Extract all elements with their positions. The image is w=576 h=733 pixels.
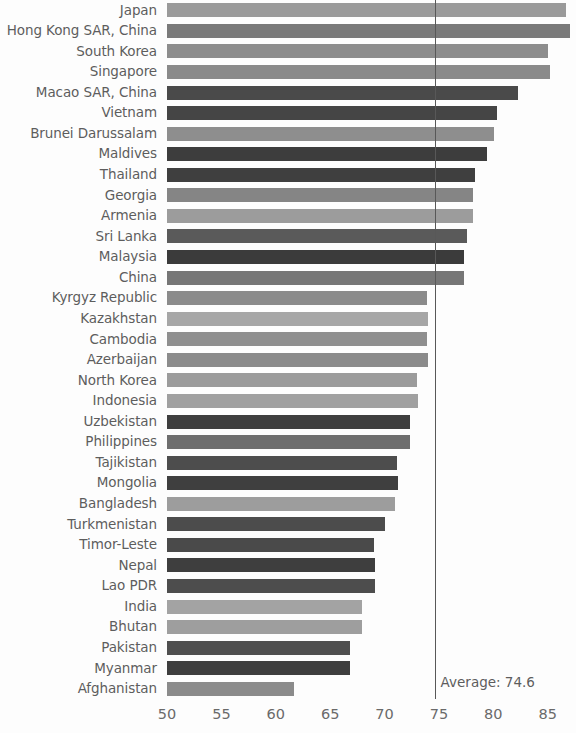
x-axis-tick-label: 65	[321, 707, 339, 722]
bar-row	[167, 103, 576, 124]
category-label: Uzbekistan	[0, 411, 163, 432]
bar-row	[167, 350, 576, 371]
bar-row	[167, 144, 576, 165]
bar-row	[167, 329, 576, 350]
category-label: Malaysia	[0, 247, 163, 268]
category-label: Timor-Leste	[0, 535, 163, 556]
bar-chart: JapanHong Kong SAR, ChinaSouth KoreaSing…	[0, 0, 576, 733]
bar-row	[167, 247, 576, 268]
bar	[167, 538, 374, 552]
bar-row	[167, 226, 576, 247]
x-axis-tick-label: 75	[430, 707, 448, 722]
bar	[167, 373, 417, 387]
bar	[167, 456, 397, 470]
bar	[167, 600, 362, 614]
bar-row	[167, 576, 576, 597]
bar	[167, 558, 375, 572]
category-label: Armenia	[0, 206, 163, 227]
x-axis-tick-label: 60	[267, 707, 285, 722]
category-axis-labels: JapanHong Kong SAR, ChinaSouth KoreaSing…	[0, 0, 163, 699]
category-label: Kyrgyz Republic	[0, 288, 163, 309]
bar-row	[167, 21, 576, 42]
bar-row	[167, 411, 576, 432]
category-label: Nepal	[0, 555, 163, 576]
bar	[167, 188, 473, 202]
category-label: India	[0, 596, 163, 617]
category-label: Singapore	[0, 62, 163, 83]
bar-row	[167, 123, 576, 144]
average-annotation-label: Average: 74.6	[441, 676, 535, 690]
category-label: Indonesia	[0, 391, 163, 412]
bar	[167, 209, 473, 223]
bar	[167, 415, 410, 429]
bar	[167, 168, 475, 182]
bar-rows	[167, 0, 576, 699]
bar-row	[167, 452, 576, 473]
bar-row	[167, 391, 576, 412]
bar-row	[167, 267, 576, 288]
category-label: Macao SAR, China	[0, 82, 163, 103]
category-label: Hong Kong SAR, China	[0, 21, 163, 42]
bar	[167, 44, 548, 58]
bar-row	[167, 555, 576, 576]
bar	[167, 353, 428, 367]
x-axis-tick-label: 80	[484, 707, 502, 722]
category-label: Pakistan	[0, 637, 163, 658]
bar-row	[167, 165, 576, 186]
bar	[167, 127, 494, 141]
bar	[167, 661, 350, 675]
value-axis: 5055606570758085	[0, 699, 576, 733]
bar-row	[167, 308, 576, 329]
bar-row	[167, 0, 576, 21]
category-label: Kazakhstan	[0, 308, 163, 329]
category-label: Bhutan	[0, 617, 163, 638]
bar	[167, 250, 464, 264]
bar	[167, 24, 570, 38]
category-label: Bangladesh	[0, 494, 163, 515]
bar-row	[167, 535, 576, 556]
category-label: Thailand	[0, 165, 163, 186]
bar	[167, 476, 398, 490]
bar-row	[167, 82, 576, 103]
bar-row	[167, 473, 576, 494]
category-label: Afghanistan	[0, 679, 163, 700]
bar-row	[167, 637, 576, 658]
category-label: Turkmenistan	[0, 514, 163, 535]
bar-row	[167, 514, 576, 535]
x-axis-tick-label: 70	[375, 707, 393, 722]
category-label: Lao PDR	[0, 576, 163, 597]
x-axis-tick-label: 50	[158, 707, 176, 722]
category-label: Cambodia	[0, 329, 163, 350]
bar-row	[167, 206, 576, 227]
category-label: South Korea	[0, 41, 163, 62]
bar-row	[167, 288, 576, 309]
bar-row	[167, 41, 576, 62]
category-label: Vietnam	[0, 103, 163, 124]
bar	[167, 271, 464, 285]
average-reference-line	[435, 0, 436, 699]
category-label: Mongolia	[0, 473, 163, 494]
plot-area: Average: 74.6	[167, 0, 576, 699]
category-label: Azerbaijan	[0, 350, 163, 371]
bar-row	[167, 185, 576, 206]
bar	[167, 86, 518, 100]
category-label: Georgia	[0, 185, 163, 206]
bar	[167, 3, 566, 17]
bar	[167, 229, 467, 243]
category-label: North Korea	[0, 370, 163, 391]
bar	[167, 497, 395, 511]
bar	[167, 394, 418, 408]
bar	[167, 641, 350, 655]
category-label: Myanmar	[0, 658, 163, 679]
x-axis-tick-label: 55	[212, 707, 230, 722]
bar	[167, 682, 294, 696]
bar-row	[167, 617, 576, 638]
category-label: Maldives	[0, 144, 163, 165]
bar	[167, 106, 497, 120]
bar	[167, 312, 428, 326]
category-label: China	[0, 267, 163, 288]
bar	[167, 579, 375, 593]
bar	[167, 65, 550, 79]
category-label: Tajikistan	[0, 452, 163, 473]
category-label: Brunei Darussalam	[0, 123, 163, 144]
